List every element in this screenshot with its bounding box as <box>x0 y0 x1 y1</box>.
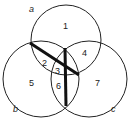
region-6: 6 <box>56 81 61 91</box>
venn-diagram: a b c 1 2 3 4 5 6 7 <box>0 0 129 119</box>
set-label-b: b <box>13 104 18 114</box>
region-7: 7 <box>95 78 100 88</box>
region-2: 2 <box>42 58 47 68</box>
set-label-c: c <box>111 104 116 114</box>
region-1: 1 <box>63 21 68 31</box>
circle-c <box>51 41 127 117</box>
set-label-a: a <box>29 4 34 14</box>
region-3: 3 <box>55 66 60 76</box>
thick-vertical-line <box>65 48 66 106</box>
region-4: 4 <box>82 48 87 58</box>
region-5: 5 <box>29 78 34 88</box>
